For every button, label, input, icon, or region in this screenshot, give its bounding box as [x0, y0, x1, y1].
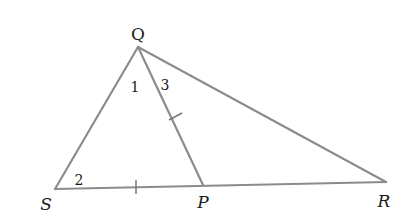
- vertex-label-r: R: [377, 191, 391, 211]
- angle-label-2: 2: [75, 172, 84, 188]
- vertex-label-q: Q: [131, 24, 145, 44]
- angle-label-3: 3: [161, 77, 170, 93]
- segment-qp: [138, 47, 203, 185]
- segment-sr: [55, 182, 386, 189]
- segment-qs: [55, 47, 138, 189]
- vertex-label-p: P: [196, 192, 209, 212]
- segment-qr: [138, 47, 386, 182]
- vertex-label-s: S: [40, 194, 52, 214]
- angle-label-1: 1: [131, 79, 140, 95]
- triangle-diagram: Q S P R 1 3 2: [0, 0, 415, 223]
